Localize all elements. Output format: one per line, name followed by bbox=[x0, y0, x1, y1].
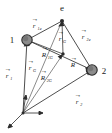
vector-label-R2G: → R 2G bbox=[40, 67, 52, 83]
vector-symbol-r2: r bbox=[76, 98, 79, 106]
vector-symbol-R1G: R bbox=[41, 51, 47, 59]
edge-body1-body2 bbox=[27, 40, 92, 70]
axis-z-line bbox=[10, 113, 24, 127]
vector-label-rGe: → r G bbox=[58, 28, 66, 44]
vector-subscript-R1G: 1G bbox=[48, 55, 53, 60]
vector-subscript-rGe: G bbox=[63, 39, 66, 44]
vector-label-r2: → r 2 bbox=[75, 91, 83, 107]
node-body-2-shade bbox=[88, 66, 93, 71]
vector-label-rG: → r G bbox=[28, 57, 36, 73]
vector-subscript-r1: 1 bbox=[10, 76, 12, 81]
axis-x-arrowhead bbox=[39, 111, 43, 114]
vector-symbol-rG: r bbox=[29, 64, 32, 72]
node-label-body-1: 1 bbox=[10, 35, 15, 45]
vector-diagram-figure: 1 2 e → r 1 → r 2 → r G bbox=[0, 0, 112, 133]
node-point-e[interactable] bbox=[60, 19, 64, 23]
node-label-body-2: 2 bbox=[102, 66, 107, 76]
vector-symbol-r1e: r bbox=[33, 22, 36, 30]
vector-label-r1e: → r 1e bbox=[32, 15, 42, 31]
vector-subscript-r2e: 2e bbox=[87, 37, 91, 42]
vector-subscript-rG: G bbox=[33, 68, 36, 73]
vector-symbol-rGe: r bbox=[59, 35, 62, 43]
vector-symbol-r1: r bbox=[6, 72, 9, 80]
vector-label-r1: → r 1 bbox=[5, 65, 13, 81]
vector-subscript-R2G: 2G bbox=[47, 78, 52, 83]
vector-diagram-canvas: 1 2 e → r 1 → r 2 → r G bbox=[0, 0, 112, 133]
vector-label-r2e: → r 2e bbox=[81, 26, 91, 42]
node-label-point-e: e bbox=[60, 3, 64, 13]
vector-symbol-R: R bbox=[70, 61, 76, 69]
node-center-of-mass[interactable] bbox=[61, 52, 64, 55]
vector-subscript-r1e: 1e bbox=[38, 26, 42, 31]
vector-label-R: → R bbox=[70, 54, 78, 69]
node-origin[interactable] bbox=[22, 112, 25, 115]
vector-symbol-r2e: r bbox=[82, 33, 85, 41]
vector-symbol-R2G: R bbox=[40, 74, 46, 82]
node-body-1-shade bbox=[23, 36, 28, 41]
vector-subscript-r2: 2 bbox=[80, 102, 82, 107]
